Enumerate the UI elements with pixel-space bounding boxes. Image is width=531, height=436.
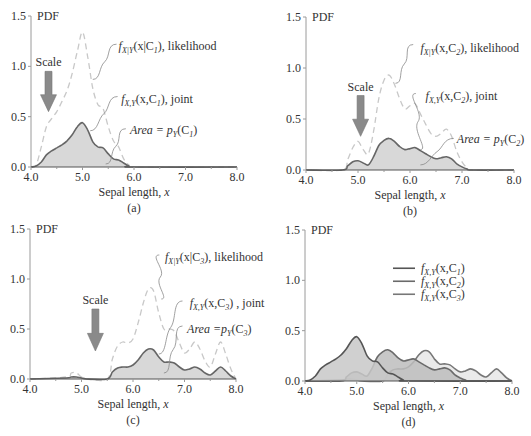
panel-label: (b) [403,204,417,218]
x-tick-label: 6.0 [401,384,416,398]
x-tick-label: 5.0 [74,382,89,396]
x-axis-label: Sepal length, x [375,188,447,202]
callout-line [93,44,117,79]
scale-label: Scale [36,55,62,69]
annotation-0: fX|Y(x,C2), likelihood [420,41,519,57]
callout-line [156,255,164,299]
y-tick-label: 1.5 [10,222,25,236]
x-axis-label: Sepal length, x [99,185,171,199]
x-axis-label: Sepal length, x [98,397,170,411]
x-tick-label: 6.0 [403,173,418,187]
annotation-2: Area = pY(C2) [456,132,524,148]
annotation-0: fX|Y(x|C3), likelihood [165,250,263,266]
x-tick-label: 7.0 [453,384,468,398]
panel-b: 0.00.51.01.54.05.06.07.08.0PDFSepal leng… [286,10,524,218]
scale-arrow-icon [41,71,57,111]
scale-arrow-icon [87,309,103,351]
annotation-1: fX,Y(x,C2), joint [426,89,498,105]
figure: 0.00.51.01.54.05.06.07.08.0PDFSepal leng… [0,0,531,436]
panel-d: 0.00.51.01.54.05.06.07.08.0PDFSepal leng… [285,223,520,429]
x-tick-label: 8.0 [230,170,245,184]
panel-c: 0.00.51.01.54.05.06.07.08.0PDFSepal leng… [10,222,265,427]
y-axis-label: PDF [37,9,59,23]
callout-line [90,97,117,131]
x-tick-label: 4.0 [24,170,39,184]
y-tick-label: 1.5 [11,9,26,23]
panel-label: (a) [127,201,140,215]
y-tick-label: 1.0 [10,272,25,286]
x-tick-label: 8.0 [507,173,522,187]
panel-label: (c) [126,413,139,427]
y-tick-label: 0.5 [285,324,300,338]
y-tick-label: 0.5 [10,322,25,336]
annotation-1: fX,Y(x,C3) , joint [190,296,265,312]
x-tick-label: 5.0 [351,173,366,187]
x-tick-label: 4.0 [23,382,38,396]
scale-label: Scale [82,293,108,307]
x-tick-label: 5.0 [75,170,90,184]
x-tick-label: 7.0 [178,170,193,184]
x-tick-label: 6.0 [127,170,142,184]
x-tick-label: 5.0 [349,384,364,398]
annotation-1: fX,Y(x,C1), joint [121,92,193,108]
y-tick-label: 0.5 [11,110,26,124]
x-tick-label: 7.0 [177,382,192,396]
y-tick-label: 1.0 [285,273,300,287]
panel-label: (d) [402,415,416,429]
y-axis-label: PDF [312,10,334,24]
scale-label: Scale [348,80,374,94]
y-axis-label: PDF [36,222,58,236]
x-tick-label: 8.0 [229,382,244,396]
y-tick-label: 1.0 [286,61,301,75]
x-tick-label: 4.0 [298,384,313,398]
y-tick-label: 0.5 [286,112,301,126]
scale-arrow-icon [353,96,369,137]
x-tick-label: 6.0 [126,382,141,396]
callout-line [395,45,413,84]
y-tick-label: 1.0 [11,59,26,73]
x-axis-label: Sepal length, x [373,399,445,413]
annotation-2: Area =pY(C3) [186,322,251,338]
y-tick-label: 1.5 [285,223,300,237]
callout-line [413,94,423,150]
panel-a: 0.00.51.01.54.05.06.07.08.0PDFSepal leng… [11,9,245,215]
x-tick-label: 7.0 [455,173,470,187]
annotation-0: fX|Y(x|C1), likelihood [119,39,217,55]
x-tick-label: 8.0 [505,384,520,398]
y-axis-label: PDF [311,223,333,237]
y-tick-label: 1.5 [286,10,301,24]
annotation-2: Area = pY(C1) [129,123,197,139]
x-tick-label: 4.0 [299,173,314,187]
